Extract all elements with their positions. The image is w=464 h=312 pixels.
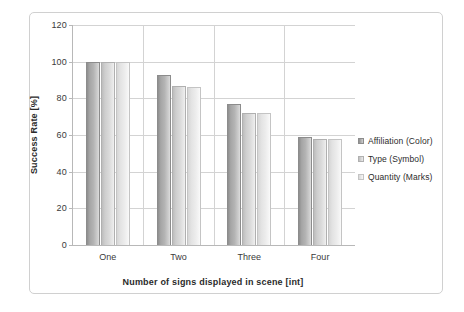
x-tick-label: Four <box>311 252 330 262</box>
bar <box>157 75 171 246</box>
y-tick-label: 120 <box>51 20 67 30</box>
x-tick-label: Two <box>170 252 187 262</box>
y-axis-title: Success Rate [%] <box>29 96 39 174</box>
legend-swatch-icon <box>358 174 364 180</box>
y-tick-label: 0 <box>62 240 67 250</box>
bar <box>172 86 186 246</box>
legend-item: Type (Symbol) <box>358 150 450 168</box>
bar <box>227 104 241 245</box>
bar <box>298 137 312 245</box>
bar <box>242 113 256 245</box>
bar <box>86 62 100 245</box>
plot-area: 020406080100120 OneTwoThreeFour <box>72 25 355 246</box>
bar-group: Three <box>215 25 286 245</box>
x-axis-title: Number of signs displayed in scene [int] <box>122 277 303 287</box>
legend-label: Type (Symbol) <box>368 154 424 164</box>
legend-label: Quantity (Marks) <box>368 172 432 182</box>
bar-group: Four <box>285 25 355 245</box>
legend-item: Quantity (Marks) <box>358 168 450 186</box>
legend-item: Affiliation (Color) <box>358 132 450 150</box>
bar <box>101 62 115 245</box>
bar <box>116 62 130 245</box>
bar <box>257 113 271 245</box>
bar <box>328 139 342 245</box>
y-tick-label: 80 <box>57 93 67 103</box>
bar <box>187 87 201 245</box>
y-tick-label: 60 <box>57 130 67 140</box>
x-tick-label: Three <box>238 252 262 262</box>
y-tick-label: 40 <box>57 167 67 177</box>
y-tick-label: 100 <box>51 57 67 67</box>
bar-chart: Success Rate [%] 020406080100120 OneTwoT… <box>0 0 464 312</box>
x-tick-label: One <box>99 252 116 262</box>
bar-group: One <box>73 25 144 245</box>
bar-group: Two <box>144 25 215 245</box>
bar <box>313 139 327 245</box>
y-tick-mark <box>69 245 73 246</box>
y-tick-label: 20 <box>57 203 67 213</box>
legend-swatch-icon <box>358 156 364 162</box>
legend-label: Affiliation (Color) <box>368 136 433 146</box>
legend-swatch-icon <box>358 138 364 144</box>
chart-legend: Affiliation (Color)Type (Symbol)Quantity… <box>358 132 450 186</box>
bar-groups: OneTwoThreeFour <box>73 25 355 245</box>
